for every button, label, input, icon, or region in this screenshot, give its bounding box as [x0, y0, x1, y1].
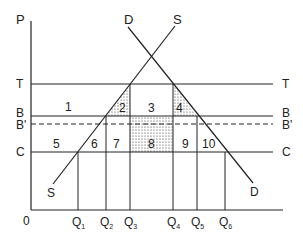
- svg-text:Q5: Q5: [191, 215, 204, 230]
- region-9-label: 9: [182, 137, 189, 151]
- demand-curve: [128, 27, 253, 183]
- svg-text:Q2: Q2: [100, 215, 113, 230]
- region-2-label: 2: [119, 101, 126, 115]
- supply-label-bottom: S: [47, 186, 55, 200]
- demand-label-bottom: D: [250, 185, 259, 199]
- label-c-left: C: [16, 145, 25, 159]
- demand-label-top: D: [124, 12, 133, 27]
- q1-label: Q1: [72, 215, 85, 230]
- label-t-right: T: [282, 77, 290, 91]
- q2-label: Q2: [100, 215, 113, 230]
- svg-text:Q3: Q3: [124, 215, 137, 230]
- supply-label-top: S: [173, 12, 182, 27]
- q4-label: Q4: [167, 215, 180, 230]
- y-axis-label: P: [16, 12, 25, 27]
- region-1-label: 1: [65, 100, 72, 114]
- supply-demand-diagram: P 0 T B B' C T B B' C D S S D 1 2 3 4 5 …: [0, 0, 303, 237]
- region-5-label: 5: [53, 137, 60, 151]
- label-b-prime-left: B': [16, 118, 26, 132]
- region-8-label: 8: [148, 137, 155, 151]
- label-t-left: T: [16, 77, 24, 91]
- q3-label: Q3: [124, 215, 137, 230]
- svg-text:Q4: Q4: [167, 215, 180, 230]
- svg-text:Q1: Q1: [72, 215, 85, 230]
- svg-text:Q6: Q6: [219, 215, 232, 230]
- q6-label: Q6: [219, 215, 232, 230]
- label-c-right: C: [282, 145, 291, 159]
- region-3-label: 3: [148, 101, 155, 115]
- label-b-prime-right: B': [282, 118, 292, 132]
- origin-label: 0: [23, 214, 30, 228]
- region-7-label: 7: [113, 137, 120, 151]
- region-10-label: 10: [202, 137, 216, 151]
- q5-label: Q5: [191, 215, 204, 230]
- region-4-label: 4: [176, 101, 183, 115]
- region-6-label: 6: [91, 137, 98, 151]
